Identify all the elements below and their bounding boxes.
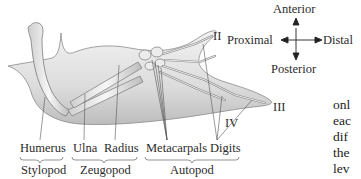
digit-iv-label: IV (225, 116, 238, 130)
digit-ii-label: II (213, 29, 221, 43)
digit-iii-label: III (273, 100, 286, 114)
posterior-label: Posterior (271, 62, 316, 76)
body-text-line: eac (333, 113, 351, 129)
stylopod-label: Stylopod (21, 163, 66, 177)
anterior-label: Anterior (273, 2, 315, 16)
metacarpals-label: Metacarpals (146, 141, 207, 155)
body-text-line: onl (333, 97, 351, 113)
radius-label: Radius (104, 141, 139, 155)
body-text-fragment: onl eac dif the lev (se (333, 97, 351, 179)
body-text-line: (se (333, 177, 351, 179)
ulna-label: Ulna (73, 141, 97, 155)
zeugopod-label: Zeugopod (80, 163, 131, 177)
distal-label: Distal (323, 33, 353, 47)
body-text-line: dif (333, 129, 351, 145)
humerus-label: Humerus (20, 141, 66, 155)
body-text-line: the (333, 145, 351, 161)
body-text-line: lev (333, 161, 351, 177)
digits-label: Digits (210, 141, 241, 155)
autopod-label: Autopod (170, 163, 214, 177)
proximal-label: Proximal (227, 33, 273, 47)
compass-arrows (281, 18, 322, 60)
